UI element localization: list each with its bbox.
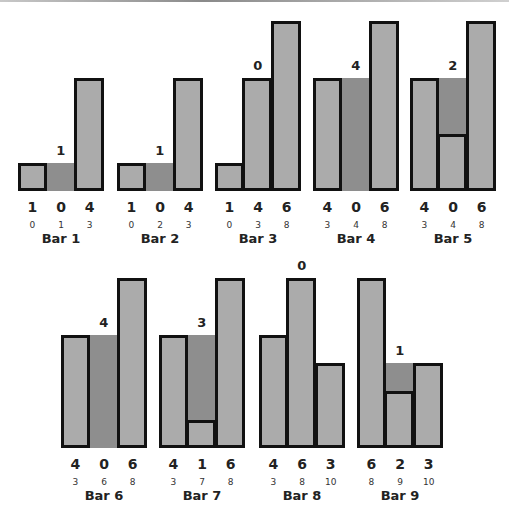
bar [466,21,496,191]
index-label: 0 [18,220,47,230]
index-labels: 348 [313,220,399,230]
index-labels: 8910 [357,477,443,487]
group-title: Bar 1 [18,231,104,246]
index-labels: 3810 [259,477,345,487]
index-label: 10 [414,477,443,487]
bar [117,163,146,191]
bar [384,391,414,448]
height-label: 0 [439,199,468,215]
height-label: 1 [18,199,47,215]
height-labels: 406 [61,456,147,472]
index-label: 7 [188,477,217,487]
bar [242,78,272,191]
height-label: 4 [174,199,203,215]
height-label: 4 [75,199,104,215]
index-labels: 378 [159,477,245,487]
height-labels: 146 [215,199,301,215]
index-label: 3 [313,220,342,230]
height-labels: 416 [159,456,245,472]
height-labels: 463 [259,456,345,472]
height-label: 2 [386,456,415,472]
index-label: 3 [159,477,188,487]
bar [18,163,47,191]
index-label: 3 [259,477,288,487]
height-label: 0 [47,199,76,215]
height-labels: 623 [357,456,443,472]
index-label: 8 [370,220,399,230]
trapped-water [90,335,119,448]
height-label: 6 [272,199,301,215]
height-label: 4 [259,456,288,472]
index-labels: 013 [18,220,104,230]
height-label: 3 [316,456,345,472]
height-label: 0 [146,199,175,215]
water-amount-label: 0 [288,258,316,273]
bar [413,363,443,448]
bar [186,420,216,448]
group-title: Bar 6 [61,488,147,503]
bar [117,278,147,448]
water-amount-label: 1 [47,143,75,158]
group-title: Bar 8 [259,488,345,503]
index-label: 8 [467,220,496,230]
group-title: Bar 9 [357,488,443,503]
group-title: Bar 7 [159,488,245,503]
height-label: 1 [215,199,244,215]
trapped-water [47,163,76,191]
height-label: 1 [117,199,146,215]
index-label: 2 [146,220,175,230]
height-label: 0 [90,456,119,472]
bar [315,363,345,448]
height-label: 1 [188,456,217,472]
height-label: 3 [414,456,443,472]
trapped-water [146,163,175,191]
height-label: 6 [357,456,386,472]
bar [286,278,316,448]
group-title: Bar 5 [410,231,496,246]
index-label: 3 [61,477,90,487]
index-label: 4 [439,220,468,230]
height-label: 4 [410,199,439,215]
height-labels: 104 [117,199,203,215]
bar [410,78,439,191]
height-label: 4 [61,456,90,472]
bar [61,335,90,448]
top-border [0,0,509,2]
index-label: 8 [288,477,317,487]
group-title: Bar 3 [215,231,301,246]
bar [357,278,386,448]
bar [369,21,399,191]
height-label: 4 [244,199,273,215]
water-amount-label: 2 [439,58,467,73]
height-label: 6 [370,199,399,215]
water-amount-label: 1 [146,143,174,158]
bar [215,163,244,191]
index-label: 8 [357,477,386,487]
water-amount-label: 0 [244,58,272,73]
index-label: 4 [342,220,371,230]
bar [173,78,203,191]
height-labels: 406 [313,199,399,215]
water-amount-label: 1 [386,343,414,358]
index-label: 0 [215,220,244,230]
index-labels: 038 [215,220,301,230]
index-label: 9 [386,477,415,487]
height-label: 4 [159,456,188,472]
bar [437,134,467,191]
bar [215,278,245,448]
index-label: 3 [244,220,273,230]
bar [259,335,288,448]
index-label: 0 [117,220,146,230]
index-labels: 023 [117,220,203,230]
index-label: 8 [216,477,245,487]
bar [74,78,104,191]
group-title: Bar 2 [117,231,203,246]
index-label: 6 [90,477,119,487]
water-amount-label: 4 [342,58,370,73]
bar [313,78,342,191]
index-labels: 348 [410,220,496,230]
height-labels: 104 [18,199,104,215]
trapped-water [342,78,371,191]
index-label: 1 [47,220,76,230]
height-label: 6 [216,456,245,472]
